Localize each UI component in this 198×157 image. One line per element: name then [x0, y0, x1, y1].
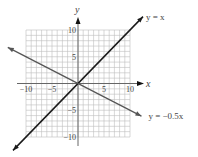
y-axis-arrow-icon — [76, 17, 81, 24]
x-tick-label: 5 — [102, 85, 106, 94]
x-axis-label: x — [145, 78, 151, 89]
series-arrowhead-icon — [8, 47, 14, 52]
y-axis-label: y — [74, 4, 80, 15]
x-axis-arrow-icon — [137, 81, 144, 86]
y-tick-label: 5 — [72, 53, 76, 62]
y-tick-label: −10 — [63, 133, 76, 142]
series-label-y-equals-neg-half-x: y = −0.5x — [148, 111, 183, 121]
x-tick-label: −5 — [48, 85, 57, 94]
chart: x y −10 −5 5 10 10 5 −5 −10 y = x y = −0… — [0, 0, 198, 157]
series-label-y-equals-x: y = x — [146, 12, 165, 22]
y-tick-label: −5 — [67, 106, 76, 115]
series-arrowhead-icon — [135, 111, 141, 116]
y-tick-label: 10 — [68, 26, 76, 35]
x-tick-label: 10 — [126, 85, 134, 94]
x-tick-label: −10 — [20, 85, 33, 94]
series-labels: y = x y = −0.5x — [146, 12, 184, 122]
